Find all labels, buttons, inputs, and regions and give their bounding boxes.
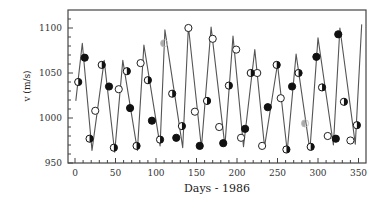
x-tick-label: 200: [228, 168, 245, 178]
x-tick-label: 150: [188, 168, 205, 178]
data-point-marker: [191, 108, 198, 115]
y-axis-title: v (m/s): [22, 70, 32, 102]
data-point-marker: [324, 132, 331, 139]
data-point-marker: [347, 137, 354, 144]
y-tick-label: 1100: [39, 23, 62, 33]
data-point-marker: [259, 142, 266, 149]
chart: 950100010501100050100150200250300350 Day…: [0, 0, 385, 208]
x-tick-label: 100: [147, 168, 164, 178]
x-tick-label: 0: [72, 168, 78, 178]
data-point-marker: [105, 83, 112, 90]
data-point-marker: [110, 144, 117, 151]
data-point-marker: [137, 60, 144, 67]
data-point-marker: [86, 135, 93, 142]
y-tick-label: 1050: [39, 68, 62, 78]
x-tick-label: 350: [350, 168, 367, 178]
data-point-marker: [123, 68, 130, 75]
data-point-marker: [225, 82, 232, 89]
data-point-marker: [247, 69, 254, 76]
x-axis-title: Days - 1986: [184, 182, 250, 195]
data-point-marker: [295, 69, 302, 76]
data-point-marker: [216, 123, 223, 130]
data-point-marker: [156, 136, 163, 143]
data-point-marker: [283, 146, 290, 153]
data-point-marker: [133, 142, 140, 149]
data-point-marker: [178, 123, 185, 130]
data-point-marker: [332, 135, 339, 142]
data-point-marker: [242, 125, 249, 132]
data-point-marker: [301, 120, 308, 127]
data-point-marker: [340, 98, 347, 105]
data-point-marker: [173, 134, 180, 141]
data-point-marker: [92, 107, 99, 114]
data-point-marker: [98, 61, 105, 68]
data-point-marker: [209, 35, 216, 42]
data-point-marker: [273, 61, 280, 68]
data-point-marker: [313, 53, 320, 60]
x-tick-label: 250: [269, 168, 286, 178]
data-point-marker: [81, 54, 88, 61]
x-tick-label: 300: [309, 168, 326, 178]
data-point-marker: [307, 143, 314, 150]
data-point-marker: [169, 90, 176, 97]
data-point-marker: [264, 104, 271, 111]
data-point-marker: [203, 97, 210, 104]
data-point-marker: [237, 134, 244, 141]
data-point-marker: [353, 122, 360, 129]
data-point-marker: [220, 140, 227, 147]
data-point-marker: [75, 78, 82, 85]
data-point-marker: [115, 86, 122, 93]
data-point-marker: [288, 83, 295, 90]
data-point-marker: [318, 84, 325, 91]
data-point-marker: [196, 142, 203, 149]
data-point-marker: [185, 24, 192, 31]
data-point-marker: [126, 105, 133, 112]
data-point-marker: [335, 31, 342, 38]
x-tick-label: 50: [110, 168, 122, 178]
data-point-marker: [277, 95, 284, 102]
data-point-marker: [148, 117, 155, 124]
data-point-marker: [144, 77, 151, 84]
data-point-marker: [233, 46, 240, 53]
y-tick-label: 1000: [39, 113, 62, 123]
y-tick-label: 950: [45, 158, 62, 168]
